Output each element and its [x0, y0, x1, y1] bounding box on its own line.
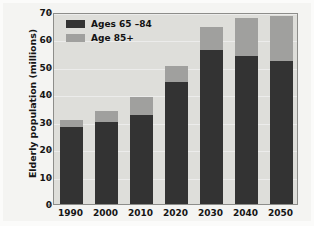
chart-figure: Elderly population (millions) 0102030405… — [0, 0, 314, 226]
y-axis-tick-mark — [48, 13, 52, 14]
bar-segment-ages-65-84 — [60, 127, 83, 204]
bar-stack — [165, 12, 188, 204]
y-axis-tick-label: 50 — [12, 63, 52, 73]
bar-stack — [235, 12, 258, 204]
legend-swatch-icon-dark — [66, 20, 85, 28]
y-axis-tick-label: 0 — [12, 200, 52, 210]
y-axis-tick-mark — [48, 40, 52, 41]
bar-segment-age-85-plus — [130, 97, 153, 115]
y-axis-tick-mark — [48, 67, 52, 68]
legend-item-ages-65-84: Ages 65 –84 — [66, 19, 152, 29]
y-axis-tick-mark — [48, 205, 52, 206]
bar-stack — [270, 12, 293, 204]
bar-segment-ages-65-84 — [235, 56, 258, 204]
y-axis-tick-mark — [48, 150, 52, 151]
y-axis-tick-mark — [48, 177, 52, 178]
legend-label: Age 85+ — [91, 33, 134, 43]
y-axis-tick-label: 30 — [12, 118, 52, 128]
y-axis-tick-label: 60 — [12, 35, 52, 45]
legend-item-age-85-plus: Age 85+ — [66, 33, 152, 43]
bar-segment-ages-65-84 — [270, 61, 293, 204]
x-axis-tick-label: 2050 — [258, 208, 304, 218]
bar-segment-age-85-plus — [270, 16, 293, 61]
y-axis-tick-label: 10 — [12, 173, 52, 183]
bar-segment-age-85-plus — [165, 66, 188, 82]
y-axis-tick-label: 20 — [12, 145, 52, 155]
y-axis-tick-label: 40 — [12, 90, 52, 100]
bar-segment-ages-65-84 — [165, 82, 188, 204]
bar-segment-age-85-plus — [95, 111, 118, 122]
bar-segment-ages-65-84 — [200, 50, 223, 204]
bar-segment-ages-65-84 — [130, 115, 153, 204]
bar-stack — [200, 12, 223, 204]
y-axis-tick-mark — [48, 95, 52, 96]
legend-swatch-icon-light — [66, 34, 85, 42]
legend-label: Ages 65 –84 — [91, 19, 152, 29]
bar-segment-age-85-plus — [200, 27, 223, 50]
bar-segment-age-85-plus — [235, 18, 258, 56]
y-axis-tick-label: 70 — [12, 8, 52, 18]
bar-segment-age-85-plus — [60, 120, 83, 127]
chart-legend: Ages 65 –84 Age 85+ — [66, 19, 152, 47]
chart-inner-frame: Elderly population (millions) 0102030405… — [3, 3, 311, 221]
y-axis-tick-mark — [48, 122, 52, 123]
bar-segment-ages-65-84 — [95, 122, 118, 204]
